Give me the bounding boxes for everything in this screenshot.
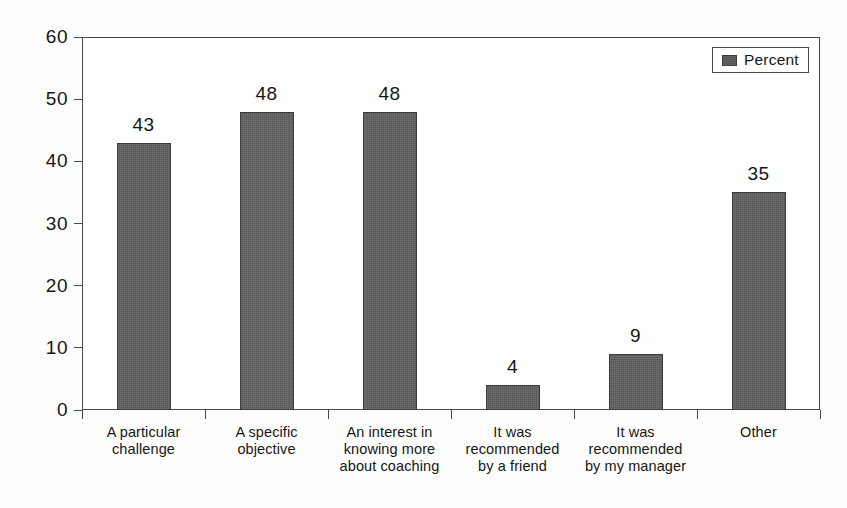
x-axis-tick-label-line: recommended bbox=[453, 441, 572, 458]
x-axis-tick bbox=[451, 410, 452, 419]
legend-swatch-percent bbox=[722, 55, 737, 66]
plot-area bbox=[82, 37, 820, 410]
x-axis-tick-label-line: about coaching bbox=[330, 458, 449, 475]
bar bbox=[609, 354, 663, 410]
y-axis-tick-label: 50 bbox=[8, 89, 68, 108]
x-axis-tick bbox=[205, 410, 206, 419]
x-axis-tick-label: A particularchallenge bbox=[84, 424, 203, 458]
y-axis-tick-label: 30 bbox=[8, 214, 68, 233]
bar-value-label: 43 bbox=[104, 115, 184, 134]
y-axis-tick-label: 10 bbox=[8, 338, 68, 357]
x-axis-tick-label: An interest inknowing moreabout coaching bbox=[330, 424, 449, 475]
x-axis-tick-label-line: A specific bbox=[207, 424, 326, 441]
x-axis-tick-label-line: by my manager bbox=[576, 458, 695, 475]
x-axis-tick-label-line: Other bbox=[699, 424, 818, 441]
y-axis-tick-label: 60 bbox=[8, 27, 68, 46]
legend[interactable]: Percent bbox=[712, 47, 809, 73]
y-axis-tick-label: 40 bbox=[8, 151, 68, 170]
bar bbox=[363, 112, 417, 410]
x-axis-tick bbox=[697, 410, 698, 419]
x-axis-tick bbox=[574, 410, 575, 419]
bar bbox=[732, 192, 786, 410]
x-axis-tick-label-line: by a friend bbox=[453, 458, 572, 475]
x-axis-tick bbox=[328, 410, 329, 419]
x-axis-tick bbox=[820, 410, 821, 419]
bar-value-label: 9 bbox=[596, 326, 676, 345]
x-axis-tick-label: Other bbox=[699, 424, 818, 441]
legend-label-percent: Percent bbox=[744, 51, 799, 69]
y-axis-tick-label: 0 bbox=[8, 400, 68, 419]
bar-value-label: 48 bbox=[350, 84, 430, 103]
x-axis-tick bbox=[82, 410, 83, 419]
x-axis-tick-label: A specificobjective bbox=[207, 424, 326, 458]
x-axis-tick-label-line: It was bbox=[576, 424, 695, 441]
x-axis-tick-label-line: challenge bbox=[84, 441, 203, 458]
bar bbox=[117, 143, 171, 410]
x-axis-tick-label-line: recommended bbox=[576, 441, 695, 458]
bar-value-label: 48 bbox=[227, 84, 307, 103]
x-axis-tick-label-line: knowing more bbox=[330, 441, 449, 458]
bar-value-label: 35 bbox=[719, 164, 799, 183]
x-axis-tick-label-line: A particular bbox=[84, 424, 203, 441]
y-axis-tick-label: 20 bbox=[8, 276, 68, 295]
x-axis-tick-label: It wasrecommendedby a friend bbox=[453, 424, 572, 475]
x-axis-tick-label-line: objective bbox=[207, 441, 326, 458]
x-axis-tick-label: It wasrecommendedby my manager bbox=[576, 424, 695, 475]
x-axis-tick-label-line: An interest in bbox=[330, 424, 449, 441]
x-axis-tick-label-line: It was bbox=[453, 424, 572, 441]
bar bbox=[486, 385, 540, 410]
bar-chart: 0102030405060 4348484935 A particularcha… bbox=[0, 0, 847, 508]
bar bbox=[240, 112, 294, 410]
bar-value-label: 4 bbox=[473, 357, 553, 376]
